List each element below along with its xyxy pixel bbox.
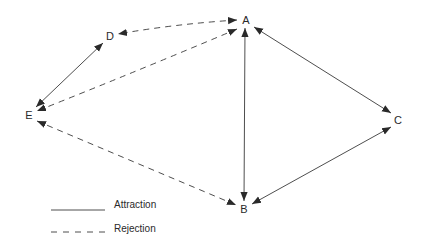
node-e: E xyxy=(25,110,32,121)
diagram-canvas xyxy=(0,0,423,251)
node-c: C xyxy=(394,115,402,126)
edge-a-e-rejection xyxy=(37,29,237,111)
node-a: A xyxy=(242,15,249,26)
edge-a-d-rejection xyxy=(118,20,237,34)
node-b: B xyxy=(240,204,247,215)
edge-a-b-attraction xyxy=(244,28,245,201)
legend-attraction-label: Attraction xyxy=(114,200,156,210)
edge-e-b-rejection xyxy=(37,121,236,205)
node-d: D xyxy=(106,31,114,42)
edge-b-c-attraction xyxy=(252,127,391,204)
sociogram-diagram: A B C D E Attraction Rejection xyxy=(0,0,423,251)
edge-a-c-attraction xyxy=(254,27,391,113)
legend-rejection-label: Rejection xyxy=(114,224,156,234)
edge-d-e-attraction xyxy=(36,43,103,107)
